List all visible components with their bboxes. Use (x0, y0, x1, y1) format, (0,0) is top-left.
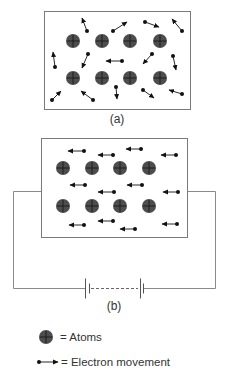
panel-a-label: (a) (110, 112, 125, 126)
electron-icon (37, 360, 58, 364)
atom-icon (56, 199, 70, 213)
atom-icon (39, 330, 53, 344)
atom-icon (113, 161, 127, 175)
conductor-box-b (42, 139, 188, 238)
atom-icon (66, 71, 80, 85)
atom-icon (66, 34, 80, 48)
atom-icon (95, 34, 109, 48)
battery-symbol (86, 279, 144, 299)
atom-icon (85, 199, 99, 213)
atom-icon (56, 161, 70, 175)
legend-atoms-label: = Atoms (60, 330, 102, 344)
atom-icon (123, 34, 137, 48)
atom-icon (153, 71, 167, 85)
atom-icon (113, 199, 127, 213)
atom-icon (123, 71, 137, 85)
legend-icons (37, 330, 58, 364)
atom-icon (95, 71, 109, 85)
atom-icon (142, 199, 156, 213)
atom-icon (85, 161, 99, 175)
conductor-box-a (45, 12, 191, 110)
legend-electron-label: = Electron movement (61, 355, 170, 369)
panel-b-label: (b) (107, 299, 122, 313)
atom-icon (153, 34, 167, 48)
atom-icon (142, 161, 156, 175)
electron-flow-diagram (0, 0, 227, 384)
